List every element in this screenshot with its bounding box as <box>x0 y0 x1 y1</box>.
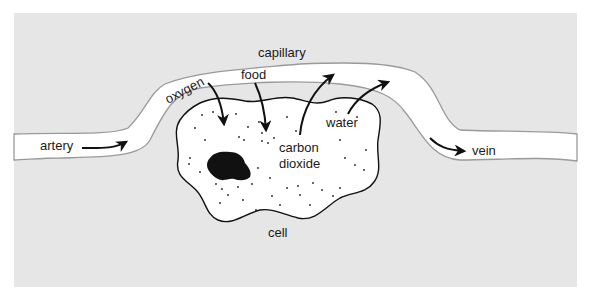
vein-label: vein <box>472 143 496 158</box>
capillary-cell-diagram: capillary oxygen food water carbon dioxi… <box>0 0 590 295</box>
water-label: water <box>325 115 358 130</box>
food-label: food <box>241 67 266 82</box>
carbon-dioxide-label-line1: carbon <box>279 140 319 155</box>
artery-label: artery <box>40 138 74 153</box>
capillary-label: capillary <box>258 45 306 60</box>
cell-label: cell <box>268 225 288 240</box>
carbon-dioxide-label-line2: dioxide <box>279 156 320 171</box>
